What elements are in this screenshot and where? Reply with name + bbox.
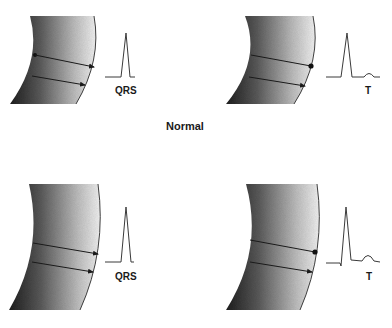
waveform-label-qrs-top: QRS	[115, 86, 137, 96]
panel-top-right	[226, 16, 380, 104]
panel-bottom-left	[9, 184, 134, 310]
qrs-t-waveform	[326, 33, 380, 77]
ecg-diagram	[0, 0, 392, 328]
waveform-label-qrs-bottom: QRS	[115, 272, 137, 282]
epicardial-dot-icon	[312, 249, 317, 254]
waveform-label-t-bottom: T	[366, 272, 372, 282]
panel-bottom-right	[226, 184, 380, 310]
qrs-waveform	[105, 33, 135, 77]
waveform-label-t-top: T	[365, 86, 371, 96]
qrs-waveform	[105, 207, 134, 262]
myocardial-wall-segment	[226, 184, 319, 310]
epicardial-dot-icon	[308, 63, 313, 68]
caption-normal: Normal	[166, 121, 204, 132]
qrs-t-waveform	[326, 207, 380, 266]
